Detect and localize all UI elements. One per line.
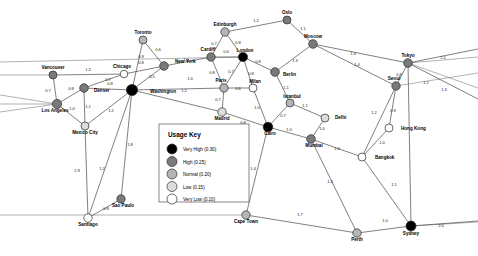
node-istanbul[interactable] (286, 99, 294, 107)
node-paris[interactable] (220, 84, 228, 92)
edge-weight-label: 0.9 (390, 108, 396, 113)
edge-sydney-__east (411, 221, 478, 226)
legend-label-2: Normal (0.20) (183, 172, 212, 177)
edge-weight-label: 0.7 (45, 88, 51, 93)
legend-swatch-2 (167, 169, 177, 179)
edge-weight-label: 1.0 (382, 218, 388, 223)
node-mexicocity[interactable] (81, 122, 89, 130)
wrap-edge (0, 95, 57, 104)
node-label-seoul: Seoul (388, 76, 401, 81)
edge-weight-label: 0.8 (209, 70, 215, 75)
edge-moscow-tokyo (313, 44, 408, 63)
node-hongkong[interactable] (385, 124, 393, 132)
edge-weight-label: 1.0 (69, 106, 75, 111)
node-saopaulo[interactable] (117, 195, 125, 203)
node-label-capetown: Cape Town (234, 219, 258, 224)
node-denver[interactable] (80, 84, 89, 93)
edge-weight-label: 0.9 (138, 54, 144, 59)
wrap-edge (408, 63, 478, 88)
node-label-vancouver: Vancouver (41, 65, 64, 70)
node-milan[interactable] (249, 84, 257, 92)
edge-weight-label: 1.1 (283, 85, 289, 90)
edge-weight-label: 0.5 (149, 74, 155, 79)
edge-weight-label: 1.3 (292, 58, 298, 63)
edge-bangkok-sydney (362, 157, 411, 226)
node-label-cairo: Cairo (264, 131, 276, 136)
node-oslo[interactable] (283, 16, 291, 24)
node-label-london: London (237, 48, 254, 53)
usage-key-legend: Usage KeyVery High (0.30)High (0.25)Norm… (159, 124, 249, 204)
node-bangkok[interactable] (358, 153, 366, 161)
node-vancouver[interactable] (49, 71, 57, 79)
edge-weight-label: 1.3 (441, 87, 447, 92)
edge-weight-label: 2.0 (438, 223, 444, 228)
edge-weight-label: 1.2 (423, 80, 429, 85)
node-label-edinburgh: Edinburgh (214, 22, 237, 27)
node-label-mumbai: Mumbai (305, 143, 322, 148)
legend-label-1: High (0.25) (183, 160, 206, 165)
legend-swatch-4 (167, 194, 177, 204)
node-tokyo[interactable] (404, 59, 413, 68)
edge-chicago-denver (84, 74, 124, 88)
edge-weight-label: 0.6 (155, 47, 161, 52)
legend-label-0: Very High (0.30) (183, 147, 217, 152)
node-perth[interactable] (353, 229, 361, 237)
node-moscow[interactable] (309, 40, 318, 49)
edge-weight-label: 0.7 (211, 41, 217, 46)
node-berlin[interactable] (271, 68, 280, 77)
node-delhi[interactable] (321, 114, 329, 122)
edge-weight-label: 0.7 (228, 69, 234, 74)
node-label-bangkok: Bangkok (375, 155, 395, 160)
node-label-sydney: Sydney (403, 231, 420, 236)
node-sydney[interactable] (406, 221, 416, 231)
node-capetown[interactable] (242, 211, 250, 219)
node-label-chicago: Chicago (113, 64, 131, 69)
node-edinburgh[interactable] (221, 28, 229, 36)
edge-weight-label: 0.6 (223, 49, 229, 54)
edge-weight-label: 1.0 (334, 146, 340, 151)
edge-weight-label: 0.7 (280, 113, 286, 118)
edge-weight-label: 0.8 (255, 59, 261, 64)
edge-weight-label: 1.0 (254, 105, 260, 110)
node-mumbai[interactable] (307, 135, 316, 144)
node-toronto[interactable] (139, 36, 147, 44)
node-newyork[interactable] (160, 62, 169, 71)
legend-title: Usage Key (168, 131, 201, 139)
node-washington[interactable] (126, 84, 137, 95)
edge-weight-label: 1.4 (327, 179, 333, 184)
node-label-milan: Milan (249, 79, 261, 84)
edge-weight-label: 0.8 (107, 81, 113, 86)
node-label-delhi: Delhi (335, 115, 346, 120)
edge-weight-label: 1.5 (440, 55, 446, 60)
edge-weight-label: 1.4 (250, 166, 256, 171)
node-chicago[interactable] (120, 70, 128, 78)
edge-weight-label: 0.7 (215, 97, 221, 102)
edge-seoul-bangkok (362, 86, 396, 157)
edge-tokyo-__east3 (408, 63, 478, 99)
node-label-hongkong: Hong Kong (401, 126, 426, 131)
node-label-mexicocity: Mexico City (72, 130, 98, 135)
node-seoul[interactable] (392, 82, 400, 90)
edge-washington-madrid (132, 90, 222, 112)
node-london[interactable] (238, 52, 247, 61)
node-label-oslo: Oslo (282, 10, 292, 15)
node-label-toronto: Toronto (134, 30, 151, 35)
edge-weight-label: 1.1 (302, 103, 308, 108)
node-label-madrid: Madrid (214, 116, 229, 121)
node-santiago[interactable] (84, 214, 92, 222)
edge-vancouver-chicago (53, 74, 124, 75)
network-diagram: 1.20.70.70.80.60.90.50.80.81.11.01.21.81… (0, 0, 478, 256)
edge-hongkong-bangkok (362, 128, 389, 157)
edge-weight-label: 0.8 (138, 60, 144, 65)
node-cardiff[interactable] (207, 53, 215, 61)
edge-weight-label: 1.1 (85, 104, 91, 109)
edge-weight-label: 1.9 (74, 168, 80, 173)
edge-weight-label: 1.2 (85, 67, 91, 72)
node-label-berlin: Berlin (283, 72, 296, 77)
node-label-losangeles: Los Angeles (41, 108, 69, 113)
edge-weight-label: 1.2 (108, 108, 114, 113)
edge-weight-label: 0.8 (235, 40, 241, 45)
edge-weight-label: 0.8 (103, 206, 109, 211)
edge-weight-label: 1.0 (187, 76, 193, 81)
node-madrid[interactable] (218, 108, 226, 116)
